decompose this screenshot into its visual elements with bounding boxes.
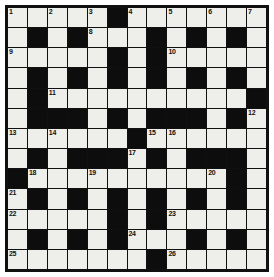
crossword-grid[interactable]: 1234567891011121314151617181920212223242… [5, 5, 269, 272]
crossword-open-cell[interactable] [247, 230, 266, 249]
crossword-open-cell[interactable] [88, 68, 107, 87]
crossword-open-cell[interactable] [187, 89, 206, 108]
crossword-open-cell[interactable] [167, 89, 186, 108]
crossword-open-cell[interactable] [247, 48, 266, 67]
crossword-open-cell[interactable] [48, 48, 67, 67]
crossword-open-cell[interactable]: 9 [8, 48, 27, 67]
crossword-open-cell[interactable] [167, 149, 186, 168]
crossword-open-cell[interactable] [167, 28, 186, 47]
crossword-open-cell[interactable] [8, 109, 27, 128]
crossword-open-cell[interactable] [227, 8, 246, 27]
crossword-open-cell[interactable] [88, 230, 107, 249]
crossword-open-cell[interactable] [187, 169, 206, 188]
crossword-open-cell[interactable] [207, 250, 226, 269]
crossword-open-cell[interactable]: 20 [207, 169, 226, 188]
crossword-open-cell[interactable] [8, 28, 27, 47]
crossword-open-cell[interactable] [187, 129, 206, 148]
crossword-open-cell[interactable] [147, 89, 166, 108]
crossword-open-cell[interactable] [108, 250, 127, 269]
crossword-open-cell[interactable] [207, 129, 226, 148]
crossword-open-cell[interactable] [128, 48, 147, 67]
crossword-open-cell[interactable] [207, 189, 226, 208]
crossword-open-cell[interactable] [8, 89, 27, 108]
crossword-open-cell[interactable] [48, 169, 67, 188]
crossword-open-cell[interactable] [68, 48, 87, 67]
crossword-open-cell[interactable] [28, 8, 47, 27]
crossword-open-cell[interactable]: 17 [128, 149, 147, 168]
crossword-open-cell[interactable] [68, 169, 87, 188]
crossword-open-cell[interactable] [48, 230, 67, 249]
crossword-open-cell[interactable] [207, 68, 226, 87]
crossword-open-cell[interactable]: 19 [88, 169, 107, 188]
crossword-open-cell[interactable] [28, 250, 47, 269]
crossword-open-cell[interactable] [108, 89, 127, 108]
crossword-open-cell[interactable]: 6 [207, 8, 226, 27]
crossword-open-cell[interactable] [128, 68, 147, 87]
crossword-open-cell[interactable] [247, 189, 266, 208]
crossword-open-cell[interactable] [68, 210, 87, 229]
crossword-open-cell[interactable] [28, 48, 47, 67]
crossword-open-cell[interactable] [88, 250, 107, 269]
crossword-open-cell[interactable] [187, 8, 206, 27]
crossword-open-cell[interactable] [167, 189, 186, 208]
crossword-open-cell[interactable]: 23 [167, 210, 186, 229]
crossword-open-cell[interactable] [8, 149, 27, 168]
crossword-open-cell[interactable] [108, 28, 127, 47]
crossword-open-cell[interactable] [227, 89, 246, 108]
crossword-open-cell[interactable]: 4 [128, 8, 147, 27]
crossword-open-cell[interactable] [128, 169, 147, 188]
crossword-open-cell[interactable] [88, 89, 107, 108]
crossword-open-cell[interactable]: 7 [247, 8, 266, 27]
crossword-open-cell[interactable] [128, 109, 147, 128]
crossword-open-cell[interactable] [48, 28, 67, 47]
crossword-open-cell[interactable] [147, 230, 166, 249]
crossword-open-cell[interactable] [187, 250, 206, 269]
crossword-open-cell[interactable] [247, 250, 266, 269]
crossword-open-cell[interactable] [207, 48, 226, 67]
crossword-open-cell[interactable] [108, 169, 127, 188]
crossword-open-cell[interactable] [68, 129, 87, 148]
crossword-open-cell[interactable] [227, 48, 246, 67]
crossword-open-cell[interactable] [247, 129, 266, 148]
crossword-open-cell[interactable] [88, 189, 107, 208]
crossword-open-cell[interactable]: 8 [88, 28, 107, 47]
crossword-open-cell[interactable] [207, 28, 226, 47]
crossword-open-cell[interactable] [247, 68, 266, 87]
crossword-open-cell[interactable] [28, 129, 47, 148]
crossword-open-cell[interactable] [247, 169, 266, 188]
crossword-open-cell[interactable]: 1 [8, 8, 27, 27]
crossword-open-cell[interactable] [247, 149, 266, 168]
crossword-open-cell[interactable] [128, 210, 147, 229]
crossword-open-cell[interactable] [88, 48, 107, 67]
crossword-open-cell[interactable] [227, 250, 246, 269]
crossword-open-cell[interactable] [167, 169, 186, 188]
crossword-open-cell[interactable] [187, 210, 206, 229]
crossword-open-cell[interactable]: 25 [8, 250, 27, 269]
crossword-open-cell[interactable] [128, 89, 147, 108]
crossword-open-cell[interactable]: 11 [48, 89, 67, 108]
crossword-open-cell[interactable] [247, 28, 266, 47]
crossword-open-cell[interactable] [8, 68, 27, 87]
crossword-open-cell[interactable] [247, 210, 266, 229]
crossword-open-cell[interactable]: 15 [147, 129, 166, 148]
crossword-open-cell[interactable] [207, 230, 226, 249]
crossword-open-cell[interactable]: 24 [128, 230, 147, 249]
crossword-open-cell[interactable]: 13 [8, 129, 27, 148]
crossword-open-cell[interactable] [8, 230, 27, 249]
crossword-open-cell[interactable] [147, 8, 166, 27]
crossword-open-cell[interactable] [227, 210, 246, 229]
crossword-open-cell[interactable] [48, 250, 67, 269]
crossword-open-cell[interactable] [108, 129, 127, 148]
crossword-open-cell[interactable] [128, 189, 147, 208]
crossword-open-cell[interactable] [227, 129, 246, 148]
crossword-open-cell[interactable] [48, 210, 67, 229]
crossword-open-cell[interactable]: 22 [8, 210, 27, 229]
crossword-open-cell[interactable] [88, 129, 107, 148]
crossword-open-cell[interactable] [167, 68, 186, 87]
crossword-open-cell[interactable] [207, 89, 226, 108]
crossword-open-cell[interactable]: 26 [167, 250, 186, 269]
crossword-open-cell[interactable] [68, 250, 87, 269]
crossword-open-cell[interactable] [68, 8, 87, 27]
crossword-open-cell[interactable]: 18 [28, 169, 47, 188]
crossword-open-cell[interactable] [88, 109, 107, 128]
